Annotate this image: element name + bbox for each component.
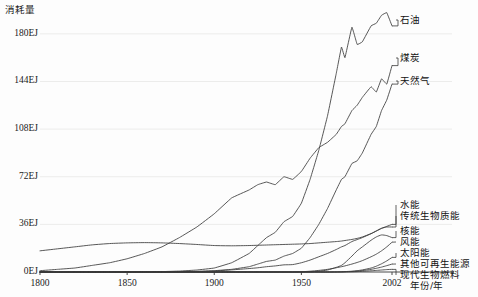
- series-line-hydropower: [40, 224, 392, 272]
- y-axis-tick-label: 0EJ: [0, 266, 38, 278]
- leader-line-coal: [392, 58, 398, 66]
- y-axis-tick-label: 36EJ: [0, 218, 38, 230]
- series-line-coal: [40, 66, 392, 271]
- x-axis-tick-label: 1800: [31, 278, 50, 288]
- x-axis-title: 年份/年: [410, 278, 443, 292]
- y-axis-tick-text: 144EJ: [14, 75, 38, 85]
- axes: [40, 272, 454, 275]
- leader-line-traditional-biomass: [392, 216, 396, 227]
- series-label-natural-gas: 天然气: [400, 76, 430, 86]
- y-axis-tick-label: 180EJ: [0, 28, 38, 40]
- y-axis-tick-label: 144EJ: [0, 75, 38, 87]
- x-axis-tick-label: 1900: [205, 278, 224, 288]
- series-label-oil: 石油: [400, 15, 420, 25]
- legend-leader-lines: [392, 20, 398, 275]
- series-line-oil: [40, 13, 392, 272]
- x-axis-tick-label: 2002: [383, 278, 402, 288]
- y-axis-tick-text: 36EJ: [19, 218, 38, 228]
- y-axis-tick-text: 0EJ: [24, 266, 38, 276]
- y-axis-tick-text: 72EJ: [19, 171, 38, 181]
- y-axis-tick-text: 180EJ: [14, 28, 38, 38]
- series-label-other-renewables: 其他可再生能源: [400, 259, 470, 269]
- series-label-nuclear: 核能: [400, 226, 420, 236]
- series-label-hydropower: 水能: [400, 200, 420, 210]
- series-line-nuclear: [40, 235, 392, 272]
- leader-line-solar: [392, 253, 396, 257]
- series-label-modern-biofuels: 现代生物燃料: [400, 270, 460, 280]
- x-axis-tick-label: 1950: [292, 278, 311, 288]
- series-label-coal: 煤炭: [400, 53, 420, 63]
- series-label-wind: 风能: [400, 237, 420, 247]
- leader-line-nuclear: [392, 231, 396, 238]
- leader-line-oil: [392, 20, 398, 26]
- series-line-traditional-biomass: [40, 227, 392, 251]
- y-axis-title: 消耗量: [5, 2, 35, 16]
- series-line-solar: [40, 257, 392, 272]
- gridlines: [40, 34, 452, 225]
- y-axis-tick-label: 72EJ: [0, 171, 38, 183]
- y-axis-tick-label: 108EJ: [0, 123, 38, 135]
- y-axis-tick-text: 108EJ: [14, 123, 38, 133]
- series-label-traditional-biomass: 传统生物质能: [400, 211, 460, 221]
- series-line-natural-gas: [40, 84, 392, 272]
- series-label-solar: 太阳能: [400, 248, 430, 258]
- energy-consumption-chart: 消耗量 0EJ36EJ72EJ108EJ144EJ180EJ1800185019…: [0, 0, 478, 297]
- series-lines: [40, 13, 392, 272]
- x-axis-tick-label: 1850: [118, 278, 137, 288]
- leader-line-hydropower: [392, 205, 396, 224]
